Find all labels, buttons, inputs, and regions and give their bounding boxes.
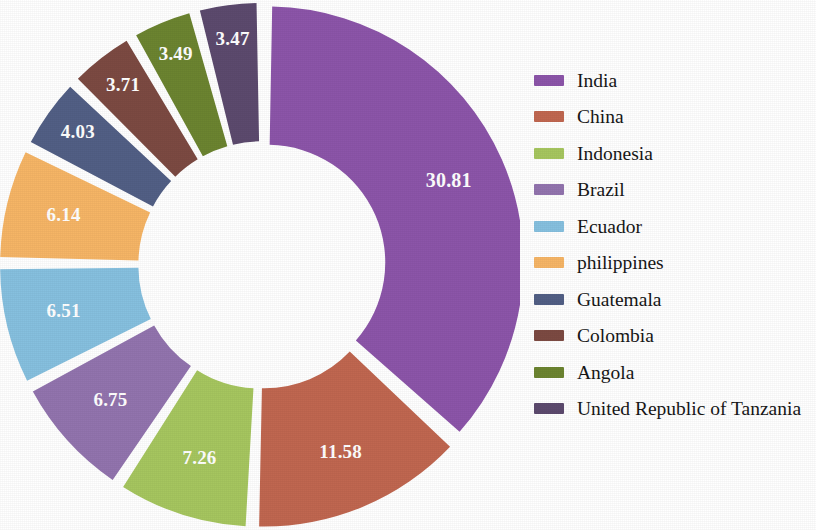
legend-color-swatch (534, 294, 564, 305)
legend-item[interactable]: China (520, 99, 816, 136)
legend-item-label: Guatemala (577, 290, 661, 310)
legend-color-swatch (534, 148, 564, 159)
pie-slice-value-label: 11.58 (319, 441, 362, 462)
legend-color-swatch (534, 221, 564, 232)
legend-item[interactable]: United Republic of Tanzania (520, 391, 816, 428)
legend-item-label: Ecuador (577, 217, 642, 237)
donut-chart: 30.8111.587.266.756.516.144.033.713.493.… (0, 0, 520, 530)
legend-item[interactable]: philippines (520, 245, 816, 282)
pie-slice-value-label: 4.03 (61, 121, 95, 142)
legend-item-label: United Republic of Tanzania (577, 399, 801, 419)
pie-slice-value-label: 6.75 (93, 389, 127, 410)
pie-slice-value-label: 3.49 (159, 43, 193, 64)
pie-slice-value-label: 6.14 (47, 204, 81, 225)
legend-color-swatch (534, 403, 564, 414)
legend-color-swatch (534, 257, 564, 268)
legend-item-label: India (577, 71, 617, 91)
chart-page: 30.8111.587.266.756.516.144.033.713.493.… (0, 0, 816, 530)
pie-slices-group (0, 3, 520, 526)
legend-color-swatch (534, 75, 564, 86)
legend-color-swatch (534, 184, 564, 195)
legend-item[interactable]: Colombia (520, 318, 816, 355)
legend-item[interactable]: Angola (520, 354, 816, 391)
pie-slice-value-label: 3.47 (216, 28, 250, 49)
pie-slice-value-label: 30.81 (426, 169, 472, 191)
legend-item-label: philippines (577, 253, 664, 273)
pie-chart-area: 30.8111.587.266.756.516.144.033.713.493.… (0, 0, 520, 530)
pie-slice-value-label: 7.26 (183, 447, 217, 468)
legend-item[interactable]: Guatemala (520, 281, 816, 318)
pie-slice-value-label: 3.71 (106, 74, 140, 95)
legend-color-swatch (534, 111, 564, 122)
legend-item[interactable]: Indonesia (520, 135, 816, 172)
legend-item[interactable]: Ecuador (520, 208, 816, 245)
chart-legend: IndiaChinaIndonesiaBrazilEcuadorphilippi… (520, 0, 816, 530)
pie-slice-value-label: 6.51 (47, 300, 81, 321)
legend-item-label: Colombia (577, 326, 654, 346)
legend-item[interactable]: Brazil (520, 172, 816, 209)
legend-color-swatch (534, 330, 564, 341)
legend-item-label: Angola (577, 363, 634, 383)
legend-item-label: Brazil (577, 180, 625, 200)
legend-item-label: China (577, 107, 624, 127)
legend-item[interactable]: India (520, 62, 816, 99)
legend-color-swatch (534, 367, 564, 378)
legend-item-label: Indonesia (577, 144, 653, 164)
pie-slice[interactable] (270, 7, 520, 432)
